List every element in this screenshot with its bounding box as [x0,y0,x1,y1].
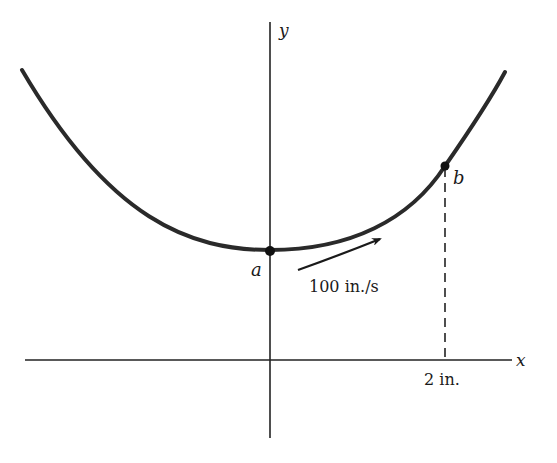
point-a-label: a [251,259,262,280]
velocity-label: 100 in./s [309,277,379,296]
diagram-canvas: y x a b 100 in./s 2 in. [0,0,557,463]
point-b-marker [441,162,450,171]
velocity-arrow-icon [298,239,380,270]
point-a-marker [265,246,275,256]
y-axis-label: y [278,20,289,40]
point-b-label: b [453,167,465,188]
dimension-label: 2 in. [424,370,460,389]
x-axis-label: x [516,350,526,370]
curve [22,70,505,250]
